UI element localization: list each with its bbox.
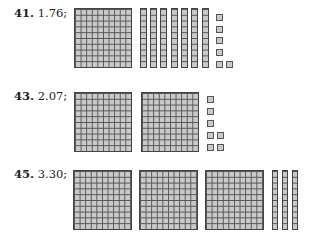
tens-rod [171,8,178,68]
problem-value: 3.30; [38,167,67,181]
problem-number: 43. [14,89,34,103]
unit-cube [216,26,223,33]
problem-number: 45. [14,167,34,181]
hundreds-flat [139,170,198,230]
tens-rod [202,8,209,68]
unit-cube [226,61,233,68]
hundreds-flat [74,8,132,68]
problem-value: 1.76; [38,6,67,20]
hundreds-flat [73,170,132,230]
hundreds-flat [205,170,264,230]
hundreds-flat [74,92,132,152]
problem-number: 41. [14,6,34,20]
unit-cube [216,37,223,44]
unit-cube [216,49,223,56]
problem-45-label: 45. 3.30; [14,167,67,181]
tens-rod [191,8,198,68]
tens-rod [140,8,147,68]
unit-cube [207,96,214,103]
problem-value: 2.07; [38,89,67,103]
unit-cube [216,14,223,21]
problem-43-label: 43. 2.07; [14,89,67,103]
unit-cube [207,108,214,115]
tens-rod [181,8,188,68]
tens-rod [282,170,288,230]
unit-cube [207,120,214,127]
unit-cube [217,132,224,139]
unit-cube [216,61,223,68]
tens-rod [272,170,278,230]
tens-rod [160,8,167,68]
tens-rod [150,8,157,68]
problem-41-label: 41. 1.76; [14,6,67,20]
unit-cube [207,144,214,151]
tens-rod [292,170,298,230]
unit-cube [217,144,224,151]
hundreds-flat [141,92,199,152]
unit-cube [207,132,214,139]
